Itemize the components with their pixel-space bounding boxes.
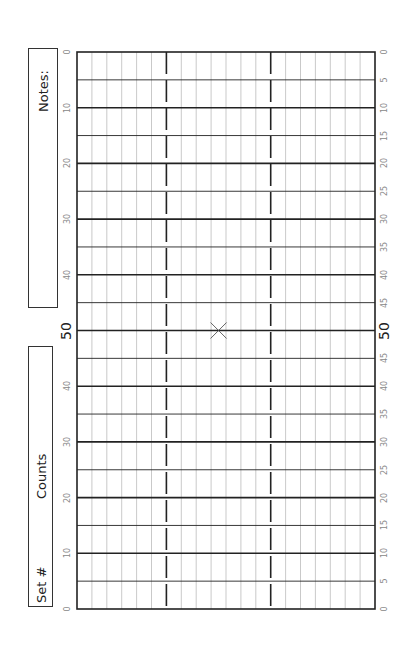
right-axis-tick: 15 [380,515,390,535]
counts-label: Counts [34,454,49,499]
right-axis-tick: 5 [380,70,390,90]
left-axis-center-label: 50 [58,319,74,343]
right-axis-tick: 25 [380,460,390,480]
set-counts-box[interactable]: Set # Counts [28,346,53,607]
right-axis-tick: 40 [380,376,390,396]
right-axis-tick: 20 [380,153,390,173]
right-axis-tick: 40 [380,265,390,285]
left-axis-tick: 30 [63,432,73,452]
right-axis-tick: 20 [380,488,390,508]
left-axis-tick: 20 [63,153,73,173]
right-axis-tick: 10 [380,543,390,563]
right-axis-tick: 10 [380,98,390,118]
right-axis-center-label: 50 [376,319,392,343]
notes-box[interactable]: Notes: [28,48,58,308]
right-axis-tick: 35 [380,237,390,257]
left-axis-tick: 40 [63,376,73,396]
right-axis-tick: 15 [380,126,390,146]
left-axis-tick: 40 [63,265,73,285]
right-axis-tick: 30 [380,209,390,229]
right-axis-tick: 45 [380,293,390,313]
tally-grid[interactable] [76,51,376,611]
left-axis-tick: 10 [63,543,73,563]
left-axis-tick: 0 [63,599,73,619]
right-axis-tick: 45 [380,348,390,368]
set-number-label: Set # [34,567,49,603]
right-axis-tick: 0 [380,42,390,62]
right-axis-tick: 0 [380,599,390,619]
left-axis-tick: 10 [63,98,73,118]
notes-label: Notes: [36,70,51,112]
right-axis-tick: 5 [380,571,390,591]
right-axis-tick: 30 [380,432,390,452]
right-axis-tick: 25 [380,181,390,201]
left-axis-tick: 0 [63,42,73,62]
right-axis-tick: 35 [380,404,390,424]
left-axis-tick: 30 [63,209,73,229]
left-axis-tick: 20 [63,488,73,508]
